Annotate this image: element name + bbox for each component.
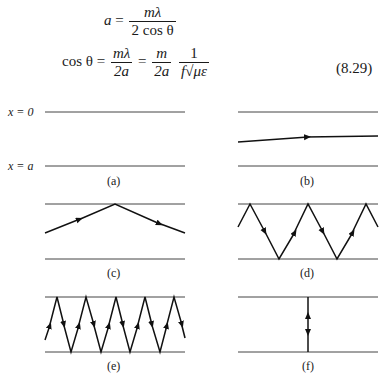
caption-f: (f): [302, 359, 314, 373]
caption-c: (c): [107, 266, 120, 280]
down-arrow-icon: [305, 329, 311, 336]
panel-e: (e): [45, 297, 185, 373]
ray: [306, 136, 378, 137]
wall-label-bottom: x = a: [7, 159, 33, 173]
panel-b: (b): [238, 112, 378, 188]
waveguide-figure: x = 0 x = a (a) (b) (c) (d): [0, 0, 386, 379]
panel-c: (c): [45, 204, 185, 280]
caption-b: (b): [300, 174, 314, 188]
ray-arrow: [238, 137, 308, 142]
panel-d: (d): [238, 204, 378, 280]
up-arrow-icon: [305, 312, 311, 319]
panel-f: (f): [238, 297, 378, 373]
caption-d: (d): [300, 266, 314, 280]
caption-a: (a): [107, 174, 120, 188]
panel-a: x = 0 x = a (a): [7, 105, 185, 188]
wall-label-top: x = 0: [7, 105, 33, 119]
caption-e: (e): [107, 359, 120, 373]
